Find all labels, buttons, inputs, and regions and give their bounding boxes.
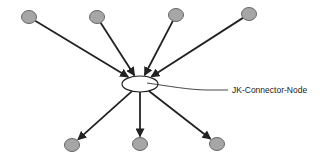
edge-in-2-to-hub xyxy=(101,23,135,76)
hub-label: JK-Connector-Node xyxy=(232,85,307,95)
edge-in-1-to-hub xyxy=(35,21,128,77)
nodes xyxy=(22,8,257,152)
edge-hub-to-out-1 xyxy=(78,91,132,139)
node-in-2 xyxy=(90,11,105,24)
edge-hub-to-out-3 xyxy=(149,91,211,139)
edge-in-3-to-hub xyxy=(145,21,173,75)
hub-label-leader-line xyxy=(147,83,228,90)
node-in-4 xyxy=(242,8,257,21)
node-out-1 xyxy=(65,139,80,152)
node-out-2 xyxy=(133,138,148,151)
node-in-3 xyxy=(169,9,184,22)
node-out-3 xyxy=(210,138,225,151)
edge-in-4-to-hub xyxy=(151,18,243,77)
node-in-1 xyxy=(22,11,37,24)
network-diagram: JK-Connector-Node xyxy=(0,0,324,164)
